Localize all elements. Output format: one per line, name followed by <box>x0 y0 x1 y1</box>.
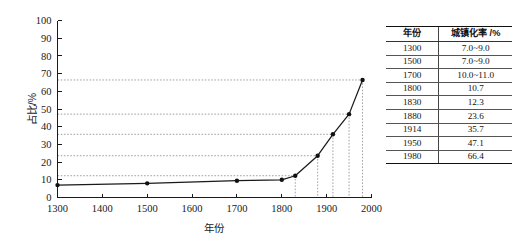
cell-rate: 10.0~11.0 <box>439 69 512 83</box>
cell-year: 1500 <box>386 55 439 69</box>
table-row: 191435.7 <box>386 123 512 137</box>
x-tick-label: 2000 <box>361 203 382 214</box>
data-point-1300 <box>55 183 59 187</box>
data-point-1914 <box>331 132 335 136</box>
table-head: 年份 城镇化率 /% <box>386 26 512 41</box>
x-tick-label: 1800 <box>271 203 292 214</box>
x-tick-label: 1300 <box>47 203 68 214</box>
x-tick-label: 1600 <box>182 203 203 214</box>
x-tick-label: 1900 <box>316 203 337 214</box>
axis-lines <box>58 21 372 198</box>
series-line-urbanization <box>58 80 363 185</box>
cell-rate: 10.7 <box>439 82 512 96</box>
cell-year: 1950 <box>386 137 439 151</box>
data-point-1830 <box>293 174 297 178</box>
cell-year: 1300 <box>386 41 439 55</box>
y-tick-label: 30 <box>41 139 52 150</box>
y-tick-label: 80 <box>41 51 52 62</box>
cell-rate: 7.0~9.0 <box>439 41 512 55</box>
table-row: 13007.0~9.0 <box>386 41 512 55</box>
y-tick-label: 50 <box>41 104 52 115</box>
y-tick-label: 90 <box>41 33 52 44</box>
cell-year: 1980 <box>386 150 439 164</box>
data-point-1950 <box>347 112 351 116</box>
y-tick-label: 20 <box>41 157 52 168</box>
data-point-1880 <box>315 154 319 158</box>
y-tick-label: 0 <box>46 192 51 203</box>
table-row: 195047.1 <box>386 137 512 151</box>
table-header-rate: 城镇化率 /% <box>439 27 512 42</box>
data-point-1700 <box>235 178 239 182</box>
y-tick-label: 40 <box>41 121 52 132</box>
cell-year: 1800 <box>386 82 439 96</box>
cell-rate: 66.4 <box>439 150 512 164</box>
data-table-panel: 年份 城镇化率 /% 13007.0~9.015007.0~9.0170010.… <box>386 26 512 164</box>
y-tick-label: 60 <box>41 86 52 97</box>
leader-lines <box>58 80 363 198</box>
x-tick-label: 1700 <box>226 203 247 214</box>
table-row: 188023.6 <box>386 109 512 123</box>
table-body: 13007.0~9.015007.0~9.0170010.0~11.018001… <box>386 41 512 163</box>
x-axis-title: 年份 <box>204 222 225 234</box>
cell-rate: 35.7 <box>439 123 512 137</box>
cell-rate: 7.0~9.0 <box>439 55 512 69</box>
y-tick-label: 100 <box>36 15 52 26</box>
table-header-year: 年份 <box>386 27 439 42</box>
series-markers <box>55 78 364 188</box>
y-axis-tick-labels: 0102030405060708090100 <box>36 15 52 203</box>
cell-rate: 23.6 <box>439 109 512 123</box>
y-tick-label: 10 <box>41 174 52 185</box>
cell-rate: 12.3 <box>439 96 512 110</box>
x-tick-label: 1500 <box>137 203 158 214</box>
data-point-1800 <box>280 178 284 182</box>
cell-rate: 47.1 <box>439 137 512 151</box>
x-axis-tick-labels: 13001400150016001700180019002000 <box>47 203 382 214</box>
cell-year: 1700 <box>386 69 439 83</box>
cell-year: 1880 <box>386 109 439 123</box>
cell-year: 1830 <box>386 96 439 110</box>
urbanization-line-chart: 0102030405060708090100 13001400150016001… <box>0 0 385 241</box>
data-point-1500 <box>145 181 149 185</box>
table-row: 198066.4 <box>386 150 512 164</box>
table-row: 15007.0~9.0 <box>386 55 512 69</box>
y-axis-title: 占比/% <box>26 93 38 125</box>
line-chart-panel: 0102030405060708090100 13001400150016001… <box>0 0 385 241</box>
y-tick-label: 70 <box>41 68 52 79</box>
cell-year: 1914 <box>386 123 439 137</box>
table-row: 183012.3 <box>386 96 512 110</box>
figure-root: 0102030405060708090100 13001400150016001… <box>0 0 516 241</box>
data-point-1980 <box>360 78 364 82</box>
y-axis-ticks <box>58 21 62 198</box>
x-axis-ticks <box>58 194 372 198</box>
table-row: 180010.7 <box>386 82 512 96</box>
urbanization-table: 年份 城镇化率 /% 13007.0~9.015007.0~9.0170010.… <box>386 26 512 164</box>
table-header-row: 年份 城镇化率 /% <box>386 27 512 42</box>
table-row: 170010.0~11.0 <box>386 69 512 83</box>
x-tick-label: 1400 <box>92 203 113 214</box>
